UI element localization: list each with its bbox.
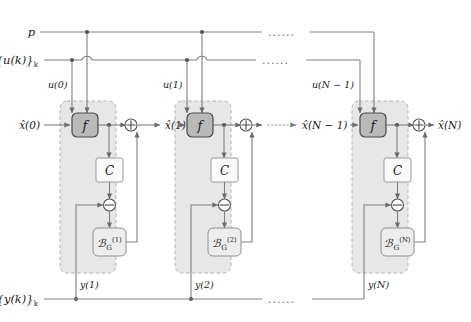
input-label-stage-3: u(N − 1) [312,79,354,90]
state-label-final: x̂(N) [438,119,461,131]
state-label-before-last: x̂(N − 1) [302,119,347,131]
input-label-stage-2: u(1) [163,79,183,90]
measurement-label-2: y(2) [194,279,214,290]
measurement-label-1: y(1) [79,279,99,290]
c-block-2-label: C [220,164,229,178]
input-rail-label: {u(k)}k [0,53,39,69]
p-junction-dot-2 [200,30,204,34]
diagram-canvas: p ...... {u(k)}k ...... u(0) u(1) u(N − … [0,0,471,322]
u-junction-dot-1 [70,58,74,62]
gain3-feedback-wire [414,132,425,242]
y-rail-ellipsis: ...... [268,293,295,306]
c-block-1-label: C [105,164,114,178]
input-label-stage-1: u(0) [48,79,68,90]
gain1-feedback-wire [126,132,137,242]
u-rail-ellipsis: ...... [262,54,289,67]
u-junction-dot-2 [185,58,189,62]
output-rail-label: {y(k)}k [0,292,39,308]
state-label-initial: x̂(0) [19,119,40,131]
p-junction-dot-1 [85,30,89,34]
c-block-3-label: C [393,164,402,178]
parameter-rail-label: p [28,25,36,39]
measurement-label-3: y(N) [367,279,389,290]
gain2-feedback-wire [241,132,252,242]
p-rail-ellipsis: ...... [268,26,295,39]
block-diagram-figure: p ...... {u(k)}k ...... u(0) u(1) u(N − … [0,0,471,322]
